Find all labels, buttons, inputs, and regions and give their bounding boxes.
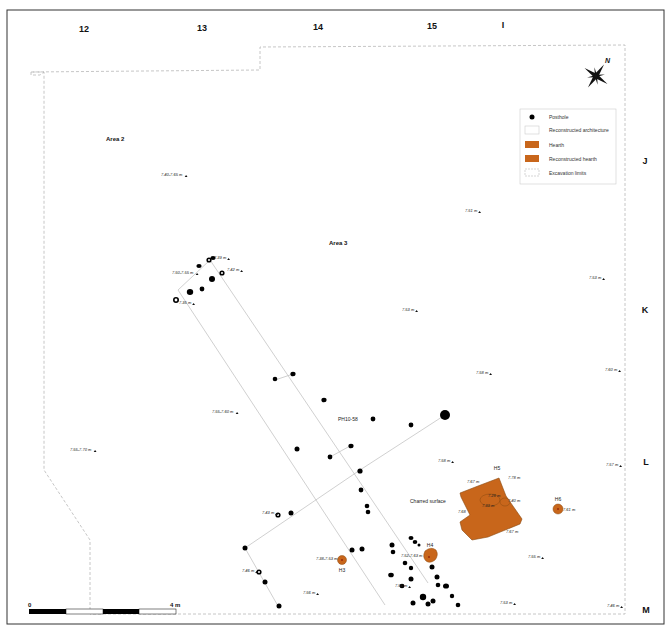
- elevation-label: 7.60 m: [605, 367, 618, 372]
- elevation-label: 7.51 m: [465, 208, 478, 213]
- elevation-label: 7.46 m: [607, 603, 620, 608]
- scale-segment: [66, 609, 103, 614]
- grid-row-I: I: [502, 20, 505, 30]
- posthole: [360, 547, 365, 552]
- grid-row-J: J: [642, 156, 647, 166]
- hearth-H6-label: H6: [555, 496, 562, 502]
- grid-col-15: 15: [427, 21, 437, 31]
- elevation-label: 7.46 m: [242, 568, 255, 573]
- elevation-label: 7.53 m: [402, 307, 415, 312]
- posthole: [431, 599, 436, 604]
- grid-row-K: K: [642, 305, 649, 315]
- posthole: [200, 287, 205, 292]
- posthole: [443, 583, 449, 588]
- elevation-label: 7.52-7.63 m: [401, 553, 423, 558]
- legend-item-excavation-limits: Excavation limits: [525, 169, 587, 176]
- scale-end-label: 4 m: [170, 602, 180, 608]
- legend: Posthole Reconstructed architecture Hear…: [520, 109, 616, 184]
- posthole: [277, 604, 282, 609]
- posthole: [357, 468, 362, 473]
- posthole-symbol: [530, 115, 535, 120]
- posthole: [388, 573, 394, 578]
- posthole: [409, 577, 414, 582]
- posthole: [413, 540, 418, 544]
- posthole: [409, 423, 414, 428]
- elevation-label: 7.40-7.65 m: [161, 172, 183, 177]
- legend-label: Hearth: [549, 142, 564, 148]
- posthole: [350, 548, 355, 553]
- posthole: [359, 488, 364, 493]
- posthole: [436, 583, 441, 588]
- area-2-label: Area 2: [106, 136, 125, 142]
- elevation-label: 7.56 m: [303, 590, 316, 595]
- posthole: [430, 565, 435, 570]
- posthole-id-label: PH10-58: [338, 416, 358, 422]
- elevation-label: 7.56 m: [395, 583, 408, 588]
- posthole: [196, 264, 201, 268]
- elevation-label: 7.58 m: [476, 370, 489, 375]
- hearth-symbol: [525, 141, 539, 148]
- posthole: [290, 372, 295, 377]
- legend-label: Reconstructed architecture: [549, 127, 609, 133]
- hearth-H4-label: H4: [427, 542, 434, 548]
- elevation-label: 7.68: [458, 509, 467, 514]
- posthole: [328, 455, 333, 460]
- grid-row-L: L: [643, 457, 649, 467]
- posthole: [209, 276, 215, 282]
- posthole: [243, 546, 248, 551]
- elevation-label: 7.53 m: [500, 600, 513, 605]
- posthole: [409, 566, 413, 570]
- posthole-ring: [207, 258, 211, 262]
- posthole: [187, 289, 193, 295]
- area-3-label: Area 3: [329, 240, 348, 246]
- elevation-label: 7.67 m: [506, 529, 519, 534]
- scale-segment: [29, 609, 66, 614]
- posthole: [365, 504, 370, 509]
- excavation-site-map: 12 13 14 15 I J K L M H5 7.67 m 7.78 m: [0, 0, 671, 641]
- posthole: [390, 543, 395, 548]
- posthole: [418, 544, 421, 547]
- posthole-ring: [174, 298, 178, 302]
- posthole-ring: [257, 570, 261, 574]
- hearth-H3-label: H3: [339, 567, 346, 573]
- posthole: [420, 594, 426, 600]
- posthole: [411, 601, 416, 606]
- posthole-ring: [220, 271, 224, 275]
- posthole: [450, 594, 454, 598]
- posthole: [440, 410, 450, 420]
- hearth-center: [557, 508, 559, 510]
- legend-label: Posthole: [549, 114, 569, 120]
- hearth-center: [341, 559, 343, 561]
- grid-col-14: 14: [313, 22, 323, 32]
- posthole: [295, 447, 300, 452]
- posthole: [371, 417, 376, 422]
- excavation-limits-symbol: [525, 169, 539, 176]
- legend-item-reconstructed-architecture: Reconstructed architecture: [525, 126, 609, 134]
- elevation-label: 7.61 m: [563, 507, 576, 512]
- reconstructed-hearth-symbol: [525, 155, 539, 162]
- grid-row-M: M: [642, 605, 650, 615]
- scale-segment: [103, 609, 139, 614]
- map-frame: [7, 10, 664, 624]
- posthole: [366, 510, 371, 515]
- posthole: [321, 398, 326, 403]
- elevation-label: 7.28 m: [488, 493, 501, 498]
- scale-segment: [139, 609, 176, 614]
- posthole: [456, 603, 461, 608]
- posthole: [435, 575, 440, 580]
- hearth-center: [428, 556, 430, 558]
- charred-surface-label: Charred surface: [410, 498, 446, 504]
- elevation-label: 7.55-7.60 m: [212, 409, 234, 414]
- posthole: [273, 377, 278, 382]
- elevation-label: 7.42 m: [227, 267, 240, 272]
- elevation-label: 7.57 m: [606, 462, 619, 467]
- hearth-H5-label: H5: [494, 465, 501, 471]
- reconstructed-architecture-symbol: [525, 126, 539, 134]
- posthole: [348, 444, 353, 449]
- elevation-label: 7.55 m: [528, 554, 541, 559]
- elevation-label: 7.40 m: [508, 498, 521, 503]
- elevation-label: 7.43 m: [262, 510, 275, 515]
- posthole: [403, 561, 408, 566]
- legend-item-reconstructed-hearth: Reconstructed hearth: [525, 155, 597, 162]
- elevation-label: 7.50-7.55 m: [172, 270, 194, 275]
